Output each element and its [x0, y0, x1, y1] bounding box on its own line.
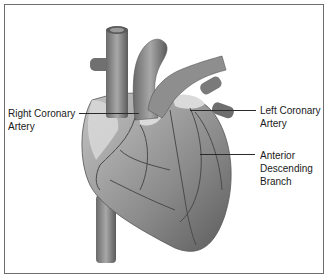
label-line: Left Coronary — [260, 104, 321, 117]
leader-right-coronary — [79, 113, 139, 114]
label-right-coronary-artery: Right Coronary Artery — [8, 107, 75, 133]
label-line: Artery — [8, 120, 75, 133]
label-line: Branch — [260, 175, 313, 188]
leader-left-coronary — [190, 110, 256, 111]
label-line: Right Coronary — [8, 107, 75, 120]
label-line: Artery — [260, 117, 321, 130]
label-line: Descending — [260, 162, 313, 175]
label-left-coronary-artery: Left Coronary Artery — [260, 104, 321, 130]
label-anterior-descending-branch: Anterior Descending Branch — [260, 149, 313, 188]
diagram-canvas: Right Coronary Artery Left Coronary Arte… — [0, 0, 330, 278]
superior-vena-cava — [106, 28, 128, 118]
leader-anterior-descending — [200, 154, 255, 155]
label-line: Anterior — [260, 149, 313, 162]
heart-illustration — [0, 0, 330, 278]
